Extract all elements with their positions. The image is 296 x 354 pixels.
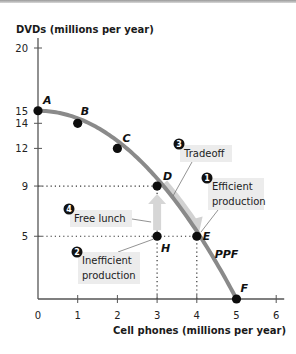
annotation-4: 4Free lunch [64, 204, 152, 228]
annotation-number: 2 [74, 248, 80, 257]
y-axis-title: DVDs (millions per year) [16, 24, 154, 35]
annotation-text: Tradeoff [183, 148, 225, 159]
ppf-chart: DVDs (millions per year) Cell phones (mi… [0, 0, 296, 354]
y-tick-label: 12 [15, 143, 28, 154]
point-H [153, 232, 162, 241]
ppf-curve-label: PPF [215, 248, 239, 261]
annotation-2: 2Inefficientproduction [72, 239, 154, 284]
annotation-text: Efficient [212, 181, 253, 192]
annotation-text: Free lunch [74, 213, 126, 224]
x-tick-label: 3 [154, 310, 160, 321]
y-tick-label: 5 [22, 231, 28, 242]
point-label-A: A [42, 94, 52, 107]
annotation-text: Inefficient [82, 255, 132, 266]
annotation-text: production [82, 270, 136, 281]
free-lunch-arrow-head [148, 194, 166, 204]
annotation-1: 1Efficientproduction [201, 173, 266, 233]
point-D [153, 181, 162, 190]
point-label-D: D [163, 170, 172, 183]
point-A [33, 106, 42, 115]
annotation-number: 3 [176, 140, 182, 149]
point-label-E: E [203, 230, 211, 243]
y-tick-label: 14 [15, 118, 28, 129]
point-C [113, 144, 122, 153]
annotation-number: 1 [204, 174, 210, 183]
point-label-H: H [161, 242, 170, 255]
annotation-leader-line [118, 239, 153, 252]
annotation-text: production [212, 196, 266, 207]
x-tick-label: 0 [35, 310, 41, 321]
x-tick-label: 4 [194, 310, 200, 321]
annotation-leader-line [173, 162, 192, 196]
annotation-leader-line [132, 219, 151, 222]
point-B [73, 119, 82, 128]
point-label-F: F [241, 282, 249, 295]
x-tick-label: 5 [233, 310, 239, 321]
x-tick-label: 1 [75, 310, 81, 321]
annotation-leader-line [201, 210, 218, 232]
point-F [232, 294, 241, 303]
x-tick-label: 6 [273, 310, 279, 321]
free-lunch-arrow-shaft [153, 203, 161, 230]
point-label-B: B [81, 105, 89, 118]
y-tick-label: 15 [15, 106, 28, 117]
x-tick-label: 2 [114, 310, 120, 321]
y-tick-label: 20 [15, 43, 28, 54]
point-E [192, 232, 201, 241]
point-label-C: C [122, 132, 130, 145]
annotation-number: 4 [66, 205, 72, 214]
y-tick-label: 9 [22, 181, 28, 192]
x-axis-title: Cell phones (millions per year) [113, 325, 286, 336]
